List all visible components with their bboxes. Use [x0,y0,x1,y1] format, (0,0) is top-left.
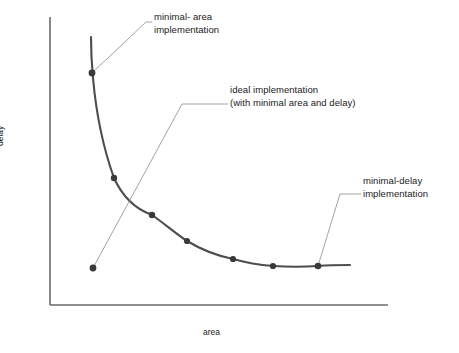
data-point [230,256,236,262]
data-point [149,212,155,218]
annotation-minimal-area: minimal- area implementation [154,11,219,36]
data-point [111,175,117,181]
data-point [184,238,190,244]
annotation-minimal-area-line2: implementation [154,24,219,37]
leader-line-minimal-delay [318,194,361,266]
figure-canvas: minimal- area implementation ideal imple… [0,0,459,353]
data-point [315,263,322,270]
annotation-minimal-delay: minimal-delay implementation [363,175,428,200]
annotation-ideal-line2: (with minimal area and delay) [230,97,356,110]
annotation-ideal-line1: ideal implementation [230,84,356,97]
ideal-point-marker [90,265,97,272]
x-axis-label: area [203,327,220,337]
annotation-ideal-implementation: ideal implementation (with minimal area … [230,84,356,109]
data-point [270,263,276,269]
data-point [89,70,96,77]
annotation-minimal-delay-line1: minimal-delay [363,175,428,188]
tradeoff-curve [91,37,350,267]
leader-line-minimal-area [92,22,152,73]
annotation-minimal-area-line1: minimal- area [154,11,219,24]
leader-line-ideal [93,104,228,268]
y-axis-label: delay [0,134,5,146]
annotation-minimal-delay-line2: implementation [363,188,428,201]
